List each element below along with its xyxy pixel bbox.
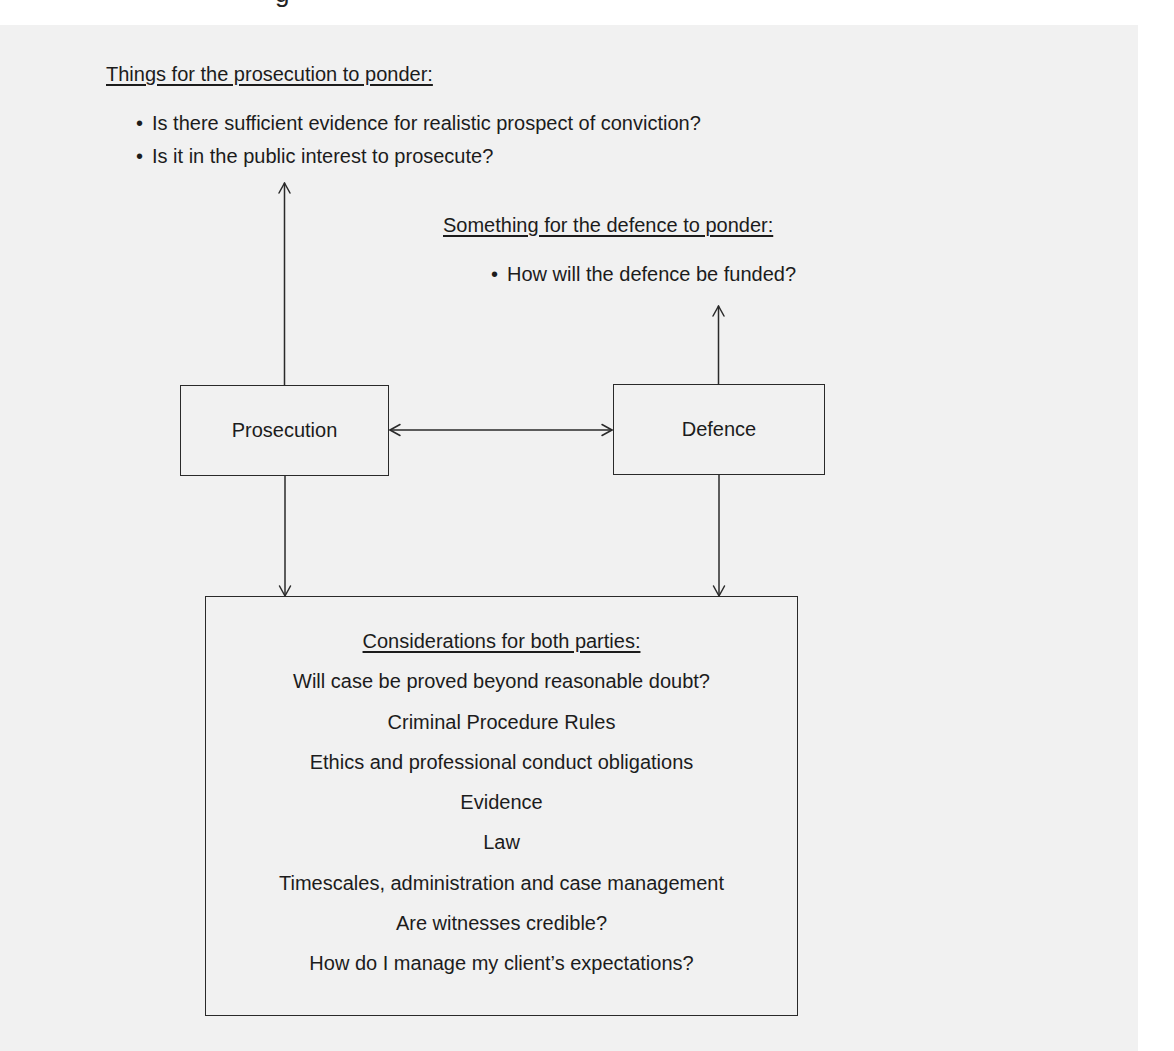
bullet-text: How will the defence be funded? [507, 263, 796, 285]
bullet-icon: • [491, 263, 507, 286]
consideration-item: Criminal Procedure Rules [206, 702, 797, 742]
cropped-glyph: g [275, 0, 289, 8]
prosecution-label: Prosecution [232, 419, 338, 442]
prosecution-bullet-1: •Is there sufficient evidence for realis… [136, 112, 701, 135]
prosecution-bullet-2: •Is it in the public interest to prosecu… [136, 145, 493, 168]
bullet-text: Is it in the public interest to prosecut… [152, 145, 493, 167]
considerations-heading: Considerations for both parties: [206, 621, 797, 661]
bullet-icon: • [136, 112, 152, 135]
consideration-item: Law [206, 822, 797, 862]
consideration-item: Timescales, administration and case mana… [206, 863, 797, 903]
bullet-text: Is there sufficient evidence for realist… [152, 112, 701, 134]
consideration-item: Ethics and professional conduct obligati… [206, 742, 797, 782]
consideration-item: Are witnesses credible? [206, 903, 797, 943]
defence-node: Defence [613, 384, 825, 475]
cropped-top-text: g [0, 0, 1174, 8]
defence-bullet-1: •How will the defence be funded? [491, 263, 796, 286]
consideration-item: Will case be proved beyond reasonable do… [206, 661, 797, 701]
prosecution-node: Prosecution [180, 385, 389, 476]
defence-heading: Something for the defence to ponder: [443, 214, 773, 237]
defence-label: Defence [682, 418, 757, 441]
consideration-item: Evidence [206, 782, 797, 822]
bullet-icon: • [136, 145, 152, 168]
consideration-item: How do I manage my client’s expectations… [206, 943, 797, 983]
considerations-box: Considerations for both parties: Will ca… [205, 596, 798, 1016]
prosecution-heading: Things for the prosecution to ponder: [106, 63, 433, 86]
